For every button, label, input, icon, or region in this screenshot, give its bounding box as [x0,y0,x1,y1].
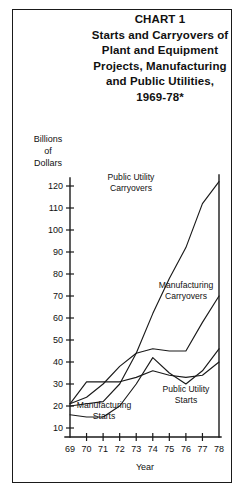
x-tick-label: 69 [65,444,75,454]
y-tick-label: 100 [48,225,63,235]
y-tick-label: 70 [53,291,63,301]
y-tick-label: 60 [53,313,63,323]
y-axis-unit-line-3: Dollars [34,158,63,168]
y-tick-label: 30 [53,379,63,389]
y-tick-label: 40 [53,357,63,367]
series-inline-labels: Public UtilityCarryoversManufacturingCar… [77,172,214,421]
x-tick-label: 73 [131,444,141,454]
chart-axes [65,175,221,437]
y-tick-label: 90 [53,247,63,257]
y-axis-unit-line-2: of [44,146,52,156]
x-tick-label: 72 [115,444,125,454]
series-label-manufacturing-starts: Starts [93,411,115,421]
x-tick-label: 75 [164,444,174,454]
x-tick-label: 74 [148,444,158,454]
y-tick-label: 50 [53,335,63,345]
series-label-manufacturing-starts: Manufacturing [77,400,132,410]
series-label-public-utility-starts: Public Utility [163,384,211,394]
x-tick-label: 76 [181,444,191,454]
line-chart-svg: Billions of Dollars 10203040506070809010… [0,0,246,493]
x-tick-label: 70 [82,444,92,454]
series-label-public-utility-carryovers: Public Utility [108,172,156,182]
y-axis-unit-label: Billions of Dollars [34,134,63,168]
series-label-manufacturing-carryovers: Manufacturing [159,280,214,290]
y-tick-label: 10 [53,423,63,433]
series-label-manufacturing-carryovers: Carryovers [165,291,207,301]
y-tick-label: 110 [49,203,63,213]
x-tick-label: 77 [197,444,207,454]
y-tick-label: 20 [53,401,63,411]
series-label-public-utility-starts: Starts [175,395,197,405]
series-label-public-utility-carryovers: Carryovers [110,183,152,193]
x-tick-label: 71 [98,444,108,454]
x-axis-title: Year [136,462,154,472]
x-axis-ticks: 69707172737475767778 [65,433,224,454]
x-tick-label: 78 [214,444,224,454]
y-tick-label: 80 [53,269,63,279]
y-tick-label: 120 [48,181,63,191]
y-axis-unit-line-1: Billions [34,134,63,144]
chart-plot-area: Billions of Dollars 10203040506070809010… [0,0,246,493]
